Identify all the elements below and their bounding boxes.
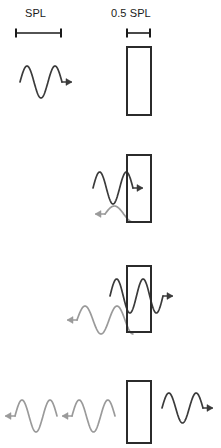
panel-steady-state-reflected-wave-near-arrow-icon <box>62 413 68 420</box>
panel-reflection-buildup-incident-wave-arrow-icon <box>167 293 173 300</box>
panel-incident-incident-wave <box>20 66 72 98</box>
half-spl-scale-label: 0.5 SPL <box>111 8 151 19</box>
panel-reflection-buildup-reflected-wave <box>67 306 133 334</box>
panel-incident-incident-wave-path <box>20 66 62 98</box>
half-spl-scale-bar <box>127 29 150 38</box>
spl-scale-label: SPL <box>25 8 46 19</box>
panel-steady-state-reflected-wave-near-path <box>72 400 115 432</box>
panel-steady-state-reflected-wave-far <box>5 400 57 432</box>
panel-steady-state-transmitted-wave-path <box>162 393 203 423</box>
panel-steady-state-barrier-rectangle <box>127 381 151 443</box>
panel-partial-transmission-reflected-wave-arrow-icon <box>95 211 101 218</box>
panel-reflection-buildup-reflected-wave-arrow-icon <box>67 317 73 324</box>
panel-steady-state-reflected-wave-near <box>62 400 115 432</box>
panel-reflection-buildup-reflected-wave-path <box>77 306 133 334</box>
sound-transmission-figure: SPL 0.5 SPL <box>0 0 221 448</box>
panel-steady-state-reflected-wave-far-arrow-icon <box>5 413 11 420</box>
panel-incident-incident-wave-arrow-icon <box>66 79 72 86</box>
spl-scale-bar <box>16 29 61 38</box>
panel-reflection-buildup-barrier-rectangle <box>127 266 151 332</box>
panel-steady-state-transmitted-wave <box>162 393 213 423</box>
diagram-canvas <box>0 0 221 448</box>
panel-incident-barrier-rectangle <box>127 47 151 115</box>
panel-steady-state-transmitted-wave-arrow-icon <box>207 405 213 412</box>
panel-steady-state-reflected-wave-far-path <box>15 400 57 432</box>
